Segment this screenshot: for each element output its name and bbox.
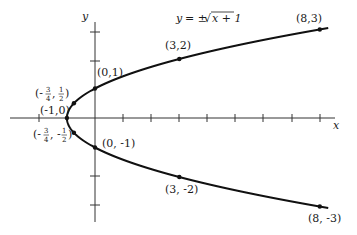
svg-text:, -: , - [50,128,61,141]
sqrt-sign-icon: √ [204,12,212,25]
svg-text:4: 4 [46,95,51,103]
svg-text:1: 1 [62,127,66,135]
label-3-m2: (3, -2) [165,183,198,196]
svg-text:4: 4 [44,136,49,144]
x-axis-label: x [333,119,340,132]
label-8-m3: (8, -3) [308,212,341,225]
point-m34-m12 [72,131,76,135]
svg-text:3: 3 [46,86,50,94]
label-3-2: (3,2) [165,39,191,52]
label-8-3: (8,3) [296,12,322,25]
point-m34-12 [72,101,76,105]
label-0-m1: (0, -1) [102,137,135,150]
label-0-1: (0,1) [97,66,123,79]
label-m34-12: (- 3 4 , 1 2 ) [35,86,69,103]
y-axis-label: y [81,10,89,23]
svg-text:1: 1 [59,86,63,94]
svg-text:(-: (- [35,87,43,100]
point-8-3 [318,27,322,31]
svg-text:2: 2 [59,95,63,103]
svg-text:(-: (- [33,128,41,141]
svg-text:,: , [52,87,56,100]
point-8-m3 [318,204,322,208]
point-3-2 [177,57,181,61]
svg-text:3: 3 [44,127,48,135]
svg-text:2: 2 [62,136,66,144]
equation-label: y = ± √ x + 1 [175,12,241,25]
parabola-graph: x y y = ± √ x + 1 (-1,0) (0,1) (0, -1) (… [0,0,357,235]
point-0-1 [93,86,97,90]
svg-text:): ) [68,128,72,141]
svg-text:): ) [65,87,69,100]
point-3-m2 [177,175,181,179]
label-vertex: (-1,0) [40,104,70,117]
point-0-m1 [93,145,97,149]
svg-text:y: y [175,12,183,25]
svg-text:x + 1: x + 1 [212,12,241,25]
label-m34-m12: (- 3 4 , - 1 2 ) [33,127,72,144]
